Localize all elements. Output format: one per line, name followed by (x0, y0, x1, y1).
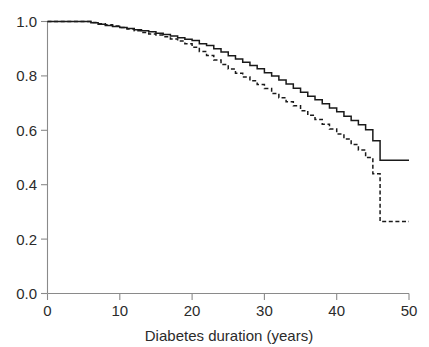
y-tick-marks (41, 22, 48, 294)
y-tick-label: 0.6 (16, 122, 37, 139)
y-tick-label: 0.8 (16, 67, 37, 84)
x-tick-label: 0 (43, 302, 51, 319)
x-tick-label: 20 (184, 302, 201, 319)
y-tick-label: 0.0 (16, 285, 37, 302)
y-tick-labels: 1.0 0.8 0.6 0.4 0.2 0.0 (16, 13, 37, 302)
x-tick-label: 40 (328, 302, 345, 319)
survival-curve-figure: 1.0 0.8 0.6 0.4 0.2 0.0 0 10 20 30 40 50… (0, 0, 429, 347)
x-tick-marks (48, 294, 410, 301)
y-tick-label: 0.4 (16, 176, 37, 193)
x-axis-title: Diabetes duration (years) (145, 327, 313, 344)
y-tick-label: 1.0 (16, 13, 37, 30)
plot-canvas: 1.0 0.8 0.6 0.4 0.2 0.0 0 10 20 30 40 50… (0, 0, 429, 347)
survival-curve-solid (48, 22, 410, 161)
x-tick-label: 10 (111, 302, 128, 319)
x-tick-labels: 0 10 20 30 40 50 (43, 302, 417, 319)
y-tick-label: 0.2 (16, 231, 37, 248)
x-tick-label: 50 (401, 302, 418, 319)
x-tick-label: 30 (256, 302, 273, 319)
